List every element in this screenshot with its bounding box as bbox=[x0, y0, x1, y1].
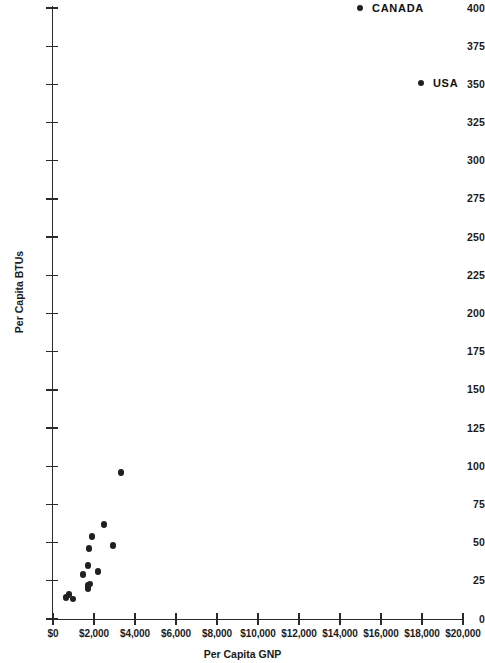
data-point bbox=[85, 585, 92, 592]
y-axis-tick-label: 50 bbox=[443, 537, 485, 548]
x-axis-tick-label: $0 bbox=[48, 628, 59, 639]
data-point-label-canada: CANADA bbox=[372, 2, 424, 14]
data-point bbox=[95, 568, 102, 575]
y-axis-tick bbox=[46, 7, 58, 8]
x-axis-tick-label: $2,000 bbox=[79, 628, 109, 639]
x-axis-tick bbox=[52, 613, 53, 625]
data-point bbox=[63, 594, 70, 601]
y-axis-tick bbox=[46, 275, 58, 276]
data-point-usa bbox=[418, 80, 424, 86]
y-axis-tick-label: 275 bbox=[443, 193, 485, 204]
y-axis-title: Per Capita BTUs bbox=[13, 222, 25, 362]
x-axis-tick bbox=[175, 613, 176, 625]
y-axis-tick-label: 300 bbox=[443, 155, 485, 166]
y-axis-tick bbox=[46, 389, 58, 390]
data-point bbox=[85, 562, 92, 569]
data-point-canada bbox=[357, 5, 363, 11]
y-axis-tick-label: 25 bbox=[443, 575, 485, 586]
data-point-label-usa: USA bbox=[433, 77, 458, 89]
y-axis-tick-label: 225 bbox=[443, 270, 485, 281]
y-axis-tick-label: 100 bbox=[443, 461, 485, 472]
y-axis-tick bbox=[46, 427, 58, 428]
data-point bbox=[80, 571, 87, 578]
y-axis-tick-label: 75 bbox=[443, 499, 485, 510]
y-axis-tick bbox=[46, 580, 58, 581]
x-axis-tick bbox=[216, 613, 217, 625]
x-axis-tick-label: $10,000 bbox=[240, 628, 275, 639]
y-axis-tick-label: 250 bbox=[443, 232, 485, 243]
y-axis-tick bbox=[46, 351, 58, 352]
data-point bbox=[118, 469, 125, 476]
y-axis-tick bbox=[46, 84, 58, 85]
y-axis-tick-label: 200 bbox=[443, 308, 485, 319]
y-axis-tick bbox=[46, 236, 58, 237]
data-point bbox=[110, 542, 117, 549]
x-axis-tick-label: $16,000 bbox=[363, 628, 398, 639]
x-axis-tick bbox=[462, 613, 463, 625]
y-axis-tick bbox=[46, 504, 58, 505]
y-axis-tick-label: 125 bbox=[443, 423, 485, 434]
y-axis-tick-label: 375 bbox=[443, 41, 485, 52]
data-point bbox=[70, 596, 77, 603]
y-axis-tick-label: 175 bbox=[443, 346, 485, 357]
x-axis-tick bbox=[380, 613, 381, 625]
x-axis-tick-label: $4,000 bbox=[120, 628, 150, 639]
x-axis-tick bbox=[298, 613, 299, 625]
x-axis-tick bbox=[93, 613, 94, 625]
scatter-chart: 0255075100125150175200225250275300325350… bbox=[0, 0, 485, 663]
x-axis-tick-label: $12,000 bbox=[281, 628, 316, 639]
x-axis-title: Per Capita GNP bbox=[0, 648, 485, 660]
y-axis-tick bbox=[46, 122, 58, 123]
x-axis-tick-label: $20,000 bbox=[445, 628, 480, 639]
y-axis-tick bbox=[46, 198, 58, 199]
x-axis-tick-label: $6,000 bbox=[161, 628, 191, 639]
x-axis-tick bbox=[134, 613, 135, 625]
y-axis-tick-label: 0 bbox=[443, 614, 485, 625]
y-axis-tick-label: 325 bbox=[443, 117, 485, 128]
x-axis-tick-label: $14,000 bbox=[322, 628, 357, 639]
y-axis-tick bbox=[46, 466, 58, 467]
x-axis-tick bbox=[421, 613, 422, 625]
x-axis-tick-label: $18,000 bbox=[404, 628, 439, 639]
data-point bbox=[101, 521, 108, 528]
y-axis-tick-label: 150 bbox=[443, 384, 485, 395]
y-axis-tick-label: 400 bbox=[443, 3, 485, 14]
x-axis-tick-label: $8,000 bbox=[202, 628, 232, 639]
data-point bbox=[86, 545, 93, 552]
data-point bbox=[89, 533, 96, 540]
y-axis-tick bbox=[46, 542, 58, 543]
y-axis-tick bbox=[46, 160, 58, 161]
y-axis-tick bbox=[46, 313, 58, 314]
y-axis-tick bbox=[46, 46, 58, 47]
x-axis-tick bbox=[257, 613, 258, 625]
x-axis-tick bbox=[339, 613, 340, 625]
